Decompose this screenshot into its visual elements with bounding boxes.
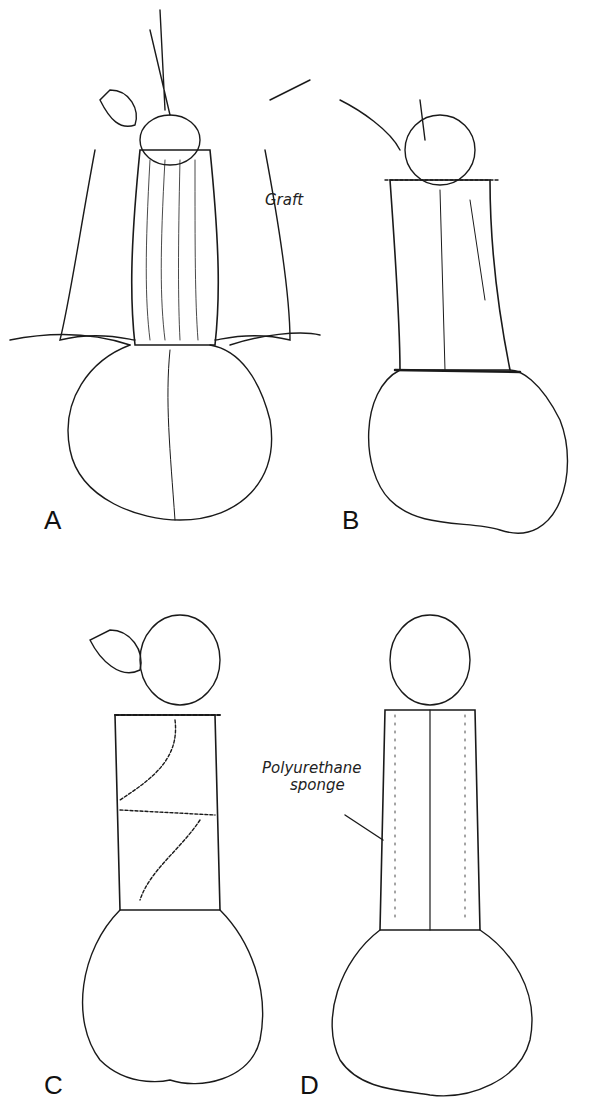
panel-label-b: B (342, 505, 359, 536)
annotation-line-2: sponge (262, 777, 362, 794)
panel-c-drawing (83, 615, 263, 1084)
panel-label-d: D (300, 1070, 319, 1101)
panel-label-a: A (44, 505, 61, 536)
annotation-line-1: Polyurethane (262, 760, 362, 777)
panel-label-c: C (44, 1070, 63, 1101)
annotation-polyurethane: Polyurethane sponge (262, 760, 362, 794)
panel-b-drawing (340, 100, 568, 533)
panel-a-drawing (10, 10, 320, 520)
annotation-graft: Graft (265, 192, 303, 209)
illustration-canvas (0, 0, 598, 1116)
panel-d-drawing (332, 615, 532, 1096)
